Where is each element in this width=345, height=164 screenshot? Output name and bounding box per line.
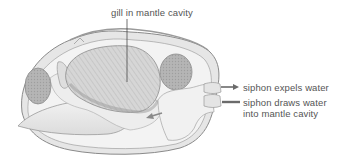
gill-label: gill in mantle cavity xyxy=(111,7,193,18)
posterior-adductor-muscle xyxy=(160,54,192,90)
siphons xyxy=(204,83,221,108)
siphon-expels-label: siphon expels water xyxy=(243,82,329,93)
siphon-draws-label: siphon draws water into mantle cavity xyxy=(243,97,343,119)
expel-arrow xyxy=(221,84,239,90)
anterior-adductor-muscle xyxy=(25,68,51,104)
